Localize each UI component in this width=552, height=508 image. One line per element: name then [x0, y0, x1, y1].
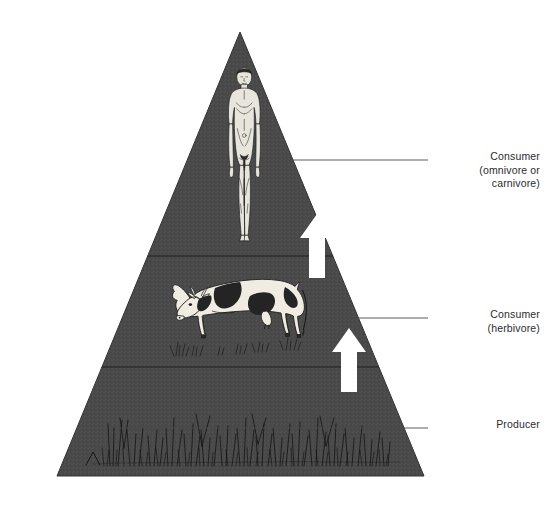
diagram-canvas: Consumer (omnivore or carnivore) Consume…	[0, 0, 552, 508]
ecological-pyramid-figure	[0, 0, 552, 508]
